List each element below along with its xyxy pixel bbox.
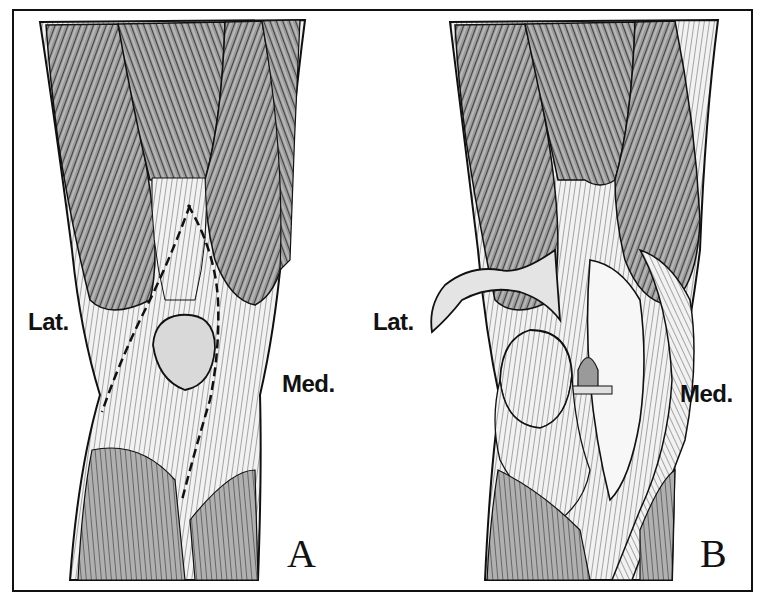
panel-a-medial-label: Med. xyxy=(282,370,335,398)
panel-a-lateral-label: Lat. xyxy=(28,308,69,336)
panel-a-letter: A xyxy=(287,530,316,577)
panel-b-drawing xyxy=(431,20,718,580)
panel-b-medial-label: Med. xyxy=(680,380,733,408)
panel-a-drawing xyxy=(40,20,305,580)
knee-anatomy-illustration xyxy=(0,0,760,604)
panel-b-letter: B xyxy=(700,530,727,577)
panel-b-lateral-label: Lat. xyxy=(373,308,414,336)
